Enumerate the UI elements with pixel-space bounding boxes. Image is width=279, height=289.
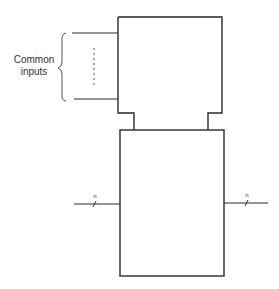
top-block (118, 17, 222, 130)
common-inputs-label-line1: Common (14, 54, 55, 65)
bottom-block (120, 130, 224, 276)
diagram-canvas: Common inputs n n (0, 0, 279, 289)
brace-icon (58, 33, 66, 101)
common-inputs-label-line2: inputs (21, 66, 48, 77)
left-bus-label: n (93, 193, 96, 199)
right-bus-label: n (245, 192, 248, 198)
